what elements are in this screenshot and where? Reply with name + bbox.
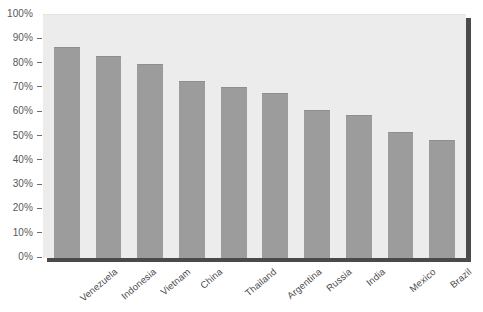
x-axis-tick-label: Mexico [408, 266, 439, 294]
y-axis-tick-mark [37, 208, 42, 209]
y-axis-tick: 90% [13, 31, 43, 45]
y-axis-tick: 50% [13, 129, 43, 143]
bar-slot [338, 15, 380, 258]
y-axis-tick-mark [37, 111, 42, 112]
y-axis-tick-label: 70% [13, 80, 33, 94]
y-axis-tick-label: 30% [13, 177, 33, 191]
bar-chart: 100%90%80%70%60%50%40%30%20%10%0% Venezu… [0, 0, 483, 312]
bar-slot [46, 15, 88, 258]
y-axis-tick-mark [37, 86, 42, 87]
y-axis-tick-mark [37, 14, 42, 15]
y-axis-tick-mark [37, 159, 42, 160]
plot-frame-right-shadow [466, 18, 471, 261]
x-axis-tick-label: China [198, 266, 224, 291]
y-axis-tick: 40% [13, 153, 43, 167]
bar-slot [296, 15, 338, 258]
bar-slot [421, 15, 463, 258]
y-axis-tick-label: 10% [13, 226, 33, 240]
y-axis-tick-mark [37, 184, 42, 185]
bars-container [43, 15, 466, 258]
bar[interactable] [179, 81, 205, 258]
y-axis-tick-mark [37, 257, 42, 258]
bar[interactable] [262, 93, 288, 258]
bar[interactable] [304, 110, 330, 258]
y-axis-tick-mark [37, 232, 42, 233]
bar-slot [255, 15, 297, 258]
bar[interactable] [221, 87, 247, 258]
x-axis: VenezuelaIndonesiaVietnamChinaThailandAr… [43, 262, 466, 312]
bar[interactable] [388, 132, 414, 258]
bar[interactable] [429, 140, 455, 258]
y-axis-tick-label: 100% [7, 7, 33, 21]
y-axis-tick-mark [37, 38, 42, 39]
bar-slot [380, 15, 422, 258]
y-axis-tick-label: 80% [13, 56, 33, 70]
bar[interactable] [54, 47, 80, 258]
x-axis-tick-label: Vietnam [159, 266, 193, 297]
y-axis-tick: 100% [7, 7, 43, 21]
y-axis-tick-label: 50% [13, 129, 33, 143]
y-axis-tick-label: 0% [18, 250, 33, 264]
x-axis-tick-label: Venezuela [77, 266, 119, 304]
x-axis-tick-label: Russia [324, 266, 354, 293]
bar[interactable] [96, 56, 122, 258]
y-axis-tick: 0% [18, 250, 43, 264]
y-axis-tick: 20% [13, 201, 43, 215]
y-axis-tick-mark [37, 135, 42, 136]
y-axis-tick: 80% [13, 56, 43, 70]
y-axis-tick: 70% [13, 80, 43, 94]
x-axis-tick-label: India [364, 266, 387, 288]
y-axis-tick: 30% [13, 177, 43, 191]
y-axis-tick-label: 20% [13, 201, 33, 215]
y-axis-tick-label: 40% [13, 153, 33, 167]
y-axis-tick-label: 90% [13, 31, 33, 45]
plot-area [43, 14, 466, 258]
bar[interactable] [346, 115, 372, 258]
y-axis-tick-label: 60% [13, 104, 33, 118]
y-axis: 100%90%80%70%60%50%40%30%20%10%0% [0, 0, 43, 271]
y-axis-tick: 60% [13, 104, 43, 118]
x-axis-tick-label: Thailand [242, 266, 278, 298]
bar-slot [88, 15, 130, 258]
x-axis-tick-label: Indonesia [118, 266, 157, 301]
bar-slot [171, 15, 213, 258]
y-axis-tick: 10% [13, 226, 43, 240]
bar[interactable] [137, 64, 163, 258]
bar-slot [129, 15, 171, 258]
bar-slot [213, 15, 255, 258]
x-axis-tick-label: Argentina [285, 266, 324, 301]
y-axis-tick-mark [37, 62, 42, 63]
x-axis-tick-label: Brazil [448, 266, 474, 290]
